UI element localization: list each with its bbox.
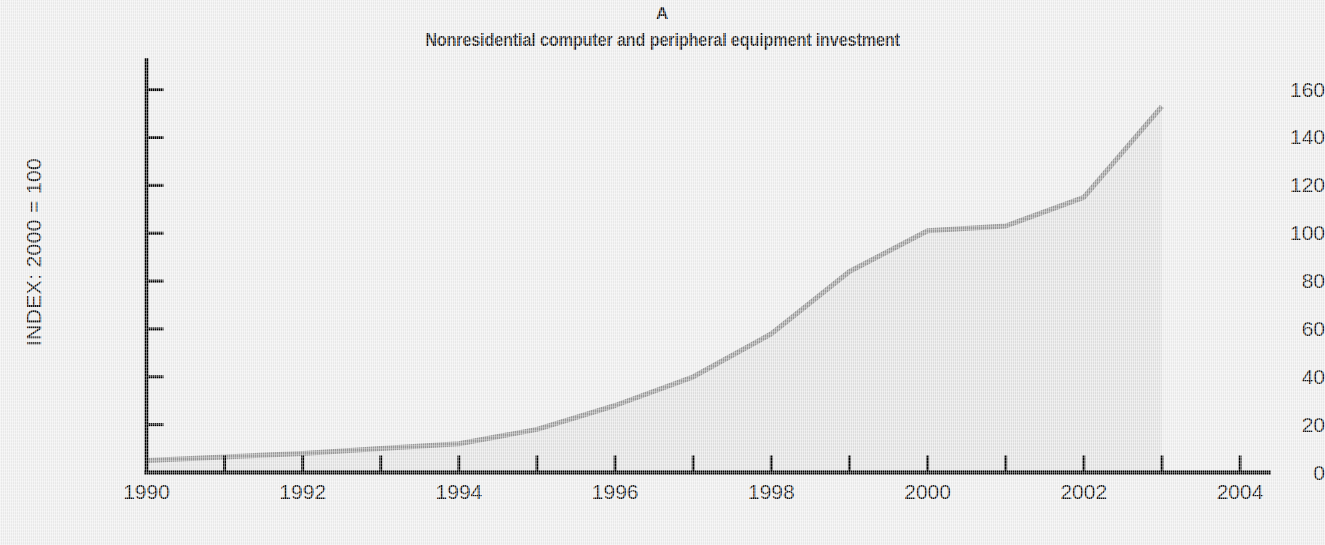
area-fill: [147, 106, 1162, 472]
figure-panel-a: A Nonresidential computer and peripheral…: [0, 0, 1325, 545]
plot-canvas: [0, 0, 1325, 545]
